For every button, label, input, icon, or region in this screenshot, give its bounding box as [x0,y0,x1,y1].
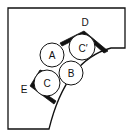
label-b: B [68,68,75,79]
vertex-label-d: D [81,17,88,28]
label-c-prime: C′ [78,43,87,54]
diagram-canvas: A C′ B C D E [0,0,130,136]
diagram-svg: A C′ B C D E [0,0,130,136]
label-a: A [49,50,56,61]
vertex-label-e: E [21,84,28,95]
label-c: C [43,78,50,89]
